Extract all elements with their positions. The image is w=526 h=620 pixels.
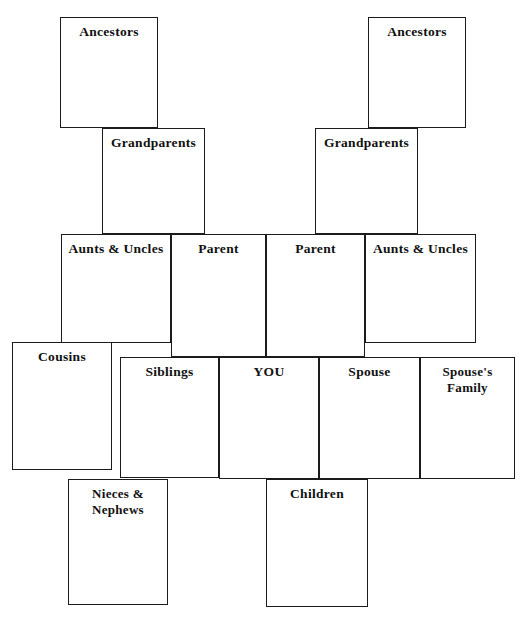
family-tree-diagram: Ancestors Ancestors Grandparents Grandpa… — [0, 0, 526, 620]
node-spouse-label: Spouse — [320, 364, 419, 380]
node-spouses-family: Spouse's Family — [420, 357, 515, 479]
node-you: YOU — [219, 357, 319, 479]
node-cousins-label: Cousins — [13, 349, 111, 365]
node-parent-left: Parent — [171, 234, 266, 357]
node-grandparents-right-label: Grandparents — [316, 135, 417, 151]
node-ancestors-right: Ancestors — [368, 17, 466, 128]
node-parent-right: Parent — [266, 234, 365, 357]
node-grandparents-right: Grandparents — [315, 128, 418, 234]
node-ancestors-left-label: Ancestors — [61, 24, 157, 40]
node-ancestors-left: Ancestors — [60, 17, 158, 128]
node-children-label: Children — [267, 486, 367, 502]
node-you-label: YOU — [220, 364, 318, 380]
node-grandparents-left-label: Grandparents — [103, 135, 204, 151]
node-parent-right-label: Parent — [267, 241, 364, 257]
node-spouse: Spouse — [319, 357, 420, 479]
node-grandparents-left: Grandparents — [102, 128, 205, 234]
node-children: Children — [266, 479, 368, 607]
node-siblings-label: Siblings — [121, 364, 218, 380]
node-aunts-uncles-right-label: Aunts & Uncles — [366, 241, 475, 257]
node-parent-left-label: Parent — [172, 241, 265, 257]
node-spouses-family-label: Spouse's Family — [421, 364, 514, 396]
node-siblings: Siblings — [120, 357, 219, 478]
node-aunts-uncles-left-label: Aunts & Uncles — [62, 241, 170, 257]
node-aunts-uncles-left: Aunts & Uncles — [61, 234, 171, 343]
node-aunts-uncles-right: Aunts & Uncles — [365, 234, 476, 343]
node-nieces-nephews-label: Nieces & Nephews — [69, 486, 167, 518]
node-nieces-nephews: Nieces & Nephews — [68, 479, 168, 605]
node-ancestors-right-label: Ancestors — [369, 24, 465, 40]
node-cousins: Cousins — [12, 342, 112, 470]
